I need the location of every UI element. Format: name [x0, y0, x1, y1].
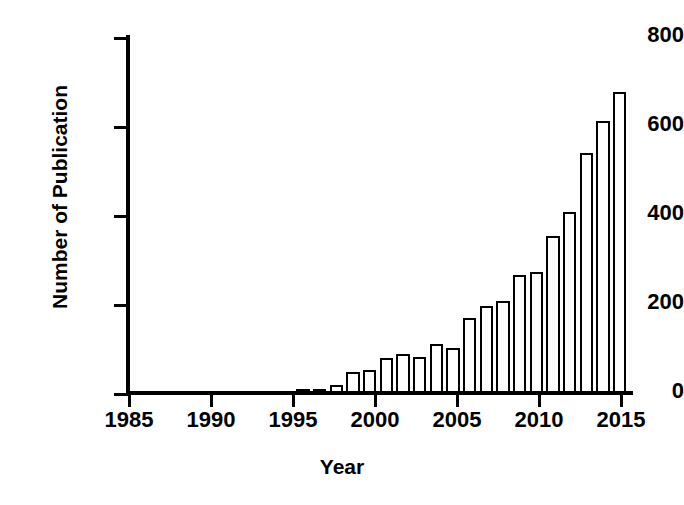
bar-2013: [596, 121, 609, 393]
bar-2001: [396, 354, 409, 393]
bar-2012: [580, 153, 593, 393]
bar-2010: [546, 236, 559, 393]
x-tick-2000: [374, 394, 377, 407]
x-tick-label-1990: 1990: [166, 409, 256, 431]
x-tick-1995: [292, 394, 295, 407]
bar-2009: [530, 272, 543, 393]
x-tick-label-1995: 1995: [248, 409, 338, 431]
bar-2006: [480, 306, 493, 393]
bar-2005: [463, 318, 476, 393]
bar-2014: [613, 92, 626, 393]
y-tick-600: [114, 126, 128, 129]
x-tick-1990: [210, 394, 213, 407]
bars-layer: [128, 37, 628, 393]
bar-2004: [446, 348, 459, 393]
x-tick-label-1985: 1985: [84, 409, 174, 431]
x-tick-2005: [456, 394, 459, 407]
x-tick-label-2005: 2005: [412, 409, 502, 431]
x-tick-label-2010: 2010: [494, 409, 584, 431]
y-tick-200: [114, 304, 128, 307]
bar-1998: [346, 372, 359, 393]
bar-chart-figure: Number of Publication Year 800 600 400 2…: [0, 0, 684, 505]
bar-2007: [496, 301, 509, 393]
x-tick-2015: [620, 394, 623, 407]
y-tick-800: [114, 37, 128, 40]
bar-1996: [313, 389, 326, 393]
bar-1999: [363, 370, 376, 393]
x-axis-title: Year: [0, 455, 684, 479]
bar-1997: [330, 385, 343, 393]
bar-2003: [430, 344, 443, 393]
y-tick-0: [114, 393, 128, 396]
x-tick-label-2015: 2015: [576, 409, 666, 431]
y-axis-title: Number of Publication: [48, 37, 72, 357]
y-tick-400: [114, 215, 128, 218]
bar-2000: [380, 358, 393, 393]
bar-1995: [296, 389, 309, 393]
bar-2011: [563, 212, 576, 393]
x-tick-2010: [538, 394, 541, 407]
bar-2008: [513, 275, 526, 393]
x-tick-1985: [128, 394, 131, 407]
bar-2002: [413, 357, 426, 393]
x-tick-label-2000: 2000: [330, 409, 420, 431]
